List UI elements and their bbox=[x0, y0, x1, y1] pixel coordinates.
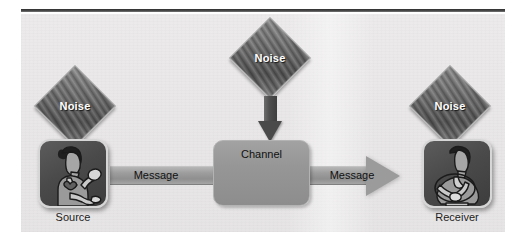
arrow-shaft bbox=[264, 96, 277, 123]
noise-down-arrow-icon bbox=[258, 96, 282, 142]
person-listening-icon bbox=[424, 141, 490, 206]
source-icon-tile bbox=[38, 139, 108, 208]
receiver-label: Receiver bbox=[402, 211, 512, 223]
source-label: Source bbox=[18, 211, 128, 223]
message-label-right: Message bbox=[307, 169, 397, 181]
receiver-icon-tile bbox=[422, 139, 492, 208]
message-label-left: Message bbox=[111, 169, 201, 181]
person-speaking-icon bbox=[40, 141, 106, 206]
arrow-head bbox=[258, 121, 282, 142]
communication-model-diagram: Noise Noise Noise Message Message Channe… bbox=[0, 0, 522, 247]
top-divider-rule bbox=[21, 9, 505, 12]
channel-label: Channel bbox=[213, 148, 310, 160]
